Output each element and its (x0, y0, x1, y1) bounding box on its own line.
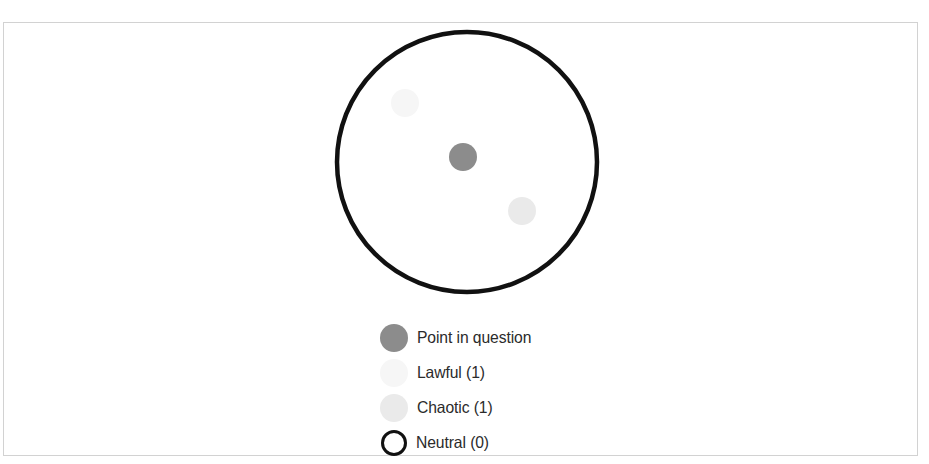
legend-item-chaotic[interactable]: Chaotic (1) (380, 390, 640, 425)
legend-marker-filled-circle-icon (380, 324, 408, 352)
legend-item-label: Lawful (1) (417, 364, 485, 381)
lawful-point[interactable] (391, 89, 419, 117)
legend-item-neutral[interactable]: Neutral (0) (380, 425, 640, 460)
legend-item-point-in-question[interactable]: Point in question (380, 320, 640, 355)
scatter-figure: Point in question Lawful (1) Chaotic (1)… (0, 0, 929, 464)
legend-marker-filled-circle-icon (380, 359, 408, 387)
legend-item-lawful[interactable]: Lawful (1) (380, 355, 640, 390)
legend: Point in question Lawful (1) Chaotic (1)… (380, 320, 640, 460)
legend-marker-open-circle-icon (381, 430, 407, 456)
legend-marker-filled-circle-icon (380, 394, 408, 422)
legend-item-label: Point in question (417, 329, 531, 346)
chaotic-point[interactable] (508, 197, 536, 225)
point-in-question[interactable] (449, 143, 477, 171)
legend-item-label: Chaotic (1) (417, 399, 493, 416)
legend-item-label: Neutral (0) (416, 434, 489, 451)
